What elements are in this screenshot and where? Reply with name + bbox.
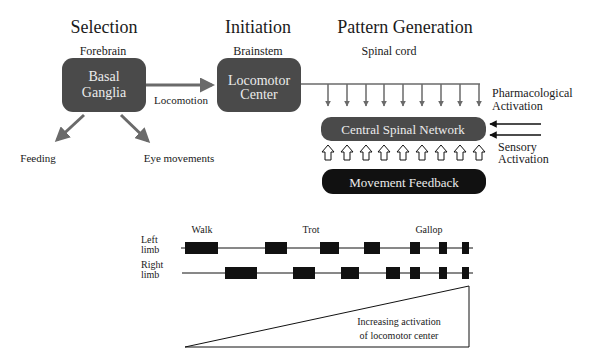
basal-ganglia-line1: Basal [88,69,119,84]
feeding-label: Feeding [20,152,56,164]
gait-label-gallop: Gallop [415,224,442,235]
stage-pattern-generation-heading: Pattern Generation [337,17,472,37]
region-forebrain: Forebrain [80,44,127,58]
sensory-label-line2: Activation [498,152,549,166]
locomotor-center-line2: Center [240,87,278,102]
descending-drive-arrows [301,84,480,106]
locomotion-label: Locomotion [154,94,208,106]
right-limb-label-line2: limb [141,269,159,280]
gait-label-walk: Walk [192,224,213,235]
eye-movements-label: Eye movements [144,152,215,164]
movement-feedback-box: Movement Feedback [322,169,486,194]
movement-feedback-label: Movement Feedback [349,175,459,190]
region-brainstem: Brainstem [233,44,283,58]
feeding-arrow-icon [57,115,84,140]
ramp-label-line1: Increasing activation [357,316,441,327]
locomotor-center-box: Locomotor Center [217,58,301,112]
stage-selection-heading: Selection [71,17,138,37]
ramp-label-line2: of locomotor center [360,330,440,341]
central-spinal-network-box: Central Spinal Network [321,117,486,141]
pharmacological-label-line2: Activation [492,99,543,113]
central-spinal-network-label: Central Spinal Network [341,122,465,137]
locomotion-control-diagram: Selection Initiation Pattern Generation … [0,0,607,360]
basal-ganglia-line2: Ganglia [82,85,127,100]
stage-initiation-heading: Initiation [225,17,291,37]
pharmacological-label-line1: Pharmacological [492,86,573,100]
region-spinal-cord: Spinal cord [362,44,417,58]
right-limb-trace [182,267,473,279]
feedback-arrows [322,145,485,160]
basal-ganglia-box: Basal Ganglia [62,58,146,112]
left-limb-trace [181,242,473,254]
gait-label-trot: Trot [303,224,320,235]
locomotor-center-line1: Locomotor [228,73,291,88]
left-limb-label-line2: limb [141,244,159,255]
eye-movements-arrow-icon [121,115,148,141]
